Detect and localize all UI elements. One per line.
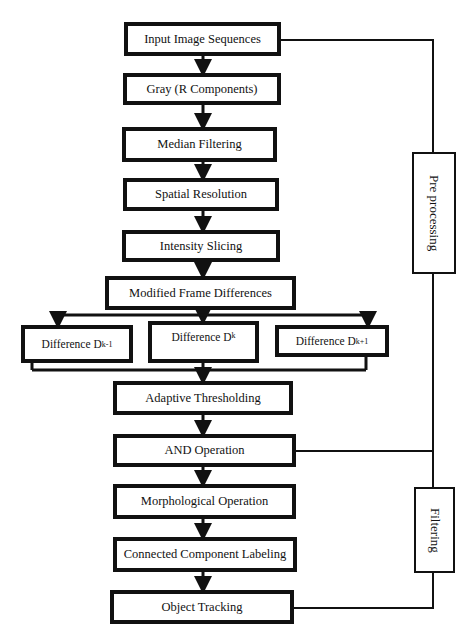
filtering-bracket-lower: [294, 573, 433, 608]
step-label: Intensity Slicing: [160, 239, 242, 254]
difference-dk-1: Difference Dk-1: [21, 325, 133, 363]
step-morphological-operation: Morphological Operation: [113, 484, 296, 519]
step-label: Connected Component Labeling: [124, 547, 286, 562]
step-label: Morphological Operation: [141, 494, 268, 509]
step-and-operation: AND Operation: [113, 434, 296, 467]
step-label: Modified Frame Differences: [129, 286, 272, 301]
step-label: Input Image Sequences: [144, 32, 261, 47]
step-intensity-slicing: Intensity Slicing: [122, 230, 280, 262]
difference-dk: Difference Dk: [148, 321, 259, 363]
difference-label: Difference D: [171, 331, 231, 343]
difference-subscript: k+1: [356, 337, 369, 346]
step-label: AND Operation: [164, 443, 244, 458]
step-object-tracking: Object Tracking: [110, 590, 294, 624]
step-label: Object Tracking: [162, 600, 243, 615]
group-label: Filtering: [427, 508, 443, 553]
preprocessing-bracket: [281, 40, 433, 152]
step-median-filtering: Median Filtering: [122, 127, 277, 162]
step-adaptive-thresholding: Adaptive Thresholding: [113, 381, 293, 415]
difference-subscript: k-1: [102, 340, 113, 349]
step-label: Spatial Resolution: [155, 187, 247, 202]
difference-dk+1: Difference Dk+1: [275, 325, 389, 357]
step-gray: Gray (R Components): [123, 73, 281, 105]
step-modified-frame-differences: Modified Frame Differences: [105, 276, 296, 310]
step-label: Gray (R Components): [146, 82, 257, 97]
group-preprocessing: Pre processing: [412, 152, 456, 274]
step-label: Adaptive Thresholding: [145, 391, 260, 406]
step-input-image-sequences: Input Image Sequences: [124, 22, 281, 56]
step-label: Median Filtering: [157, 137, 241, 152]
step-spatial-resolution: Spatial Resolution: [123, 178, 279, 211]
difference-label: Difference D: [296, 335, 356, 347]
step-connected-component-labeling: Connected Component Labeling: [113, 537, 297, 572]
difference-label: Difference D: [42, 338, 102, 350]
difference-subscript: k: [232, 331, 236, 340]
group-label: Pre processing: [426, 175, 442, 251]
group-filtering: Filtering: [414, 487, 455, 573]
